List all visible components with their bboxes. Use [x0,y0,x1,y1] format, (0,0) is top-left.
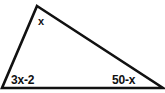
bottom-left-angle-label: 3x-2 [11,74,34,86]
bottom-right-angle-label: 50-x [112,74,135,86]
apex-angle-label: x [38,16,44,27]
triangle-diagram: x 3x-2 50-x [0,0,165,93]
